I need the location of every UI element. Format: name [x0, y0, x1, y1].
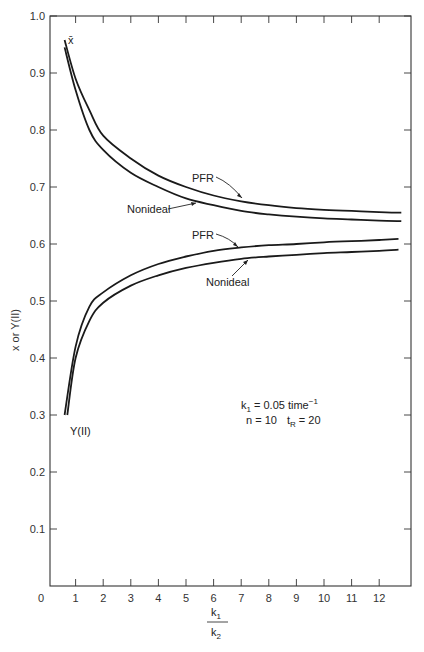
x-tick-label: 8	[266, 592, 272, 604]
y-tick-label: 0.3	[30, 409, 45, 421]
x-tick-label: 2	[100, 592, 106, 604]
svg-text:k2: k2	[211, 626, 222, 641]
lower-pfr-label: PFR	[192, 229, 214, 241]
upper-nonideal-label: Nonideal	[127, 203, 170, 215]
curve-y-ii-pfr	[65, 239, 399, 415]
lower-nonideal-label: Nonideal	[206, 276, 249, 288]
y-tick-label: 0.5	[30, 295, 45, 307]
y-axis-label: x or Y(II)	[9, 309, 21, 351]
x-tick-label: 3	[128, 592, 134, 604]
x-tick-label: 12	[373, 592, 385, 604]
xbar-label: x̄	[68, 34, 74, 46]
yII-label: Y(II)	[70, 425, 91, 437]
x-tick-label: 5	[183, 592, 189, 604]
y-tick-label: 0.7	[30, 181, 45, 193]
y-tick-label: 0.4	[30, 352, 45, 364]
x-tick-label: 11	[346, 592, 357, 604]
curve-x-pfr	[65, 40, 402, 213]
x-tick-label: 4	[155, 592, 161, 604]
x-tick-label: 9	[293, 592, 299, 604]
x-tick-label: 7	[238, 592, 244, 604]
x-tick-label: 10	[318, 592, 330, 604]
y-tick-label: 0.1	[30, 523, 45, 535]
chart: 01234567891011120.10.20.30.40.50.60.70.8…	[0, 0, 424, 652]
annotations: x̄ Y(II) PFR Nonideal PFR Nonideal k1 = …	[68, 34, 321, 437]
y-tick-label: 1.0	[30, 10, 45, 22]
y-tick-label: 0.2	[30, 466, 45, 478]
x-tick-label: 6	[211, 592, 217, 604]
curve-x-nonideal	[65, 47, 402, 221]
param-line-2: n = 10tR = 20	[246, 414, 321, 429]
x-tick-label: 1	[73, 592, 79, 604]
y-tick-label: 0.9	[30, 67, 45, 79]
x-tick-label: 0	[38, 592, 44, 604]
x-axis-label: k1 k2	[207, 606, 228, 641]
y-tick-label: 0.6	[30, 238, 45, 250]
axis-ticks: 01234567891011120.10.20.30.40.50.60.70.8…	[30, 10, 411, 604]
param-line-1: k1 = 0.05 time−1	[241, 397, 318, 414]
svg-text:k1: k1	[211, 606, 222, 621]
y-tick-label: 0.8	[30, 124, 45, 136]
curves	[65, 40, 402, 415]
upper-pfr-label: PFR	[192, 172, 214, 184]
